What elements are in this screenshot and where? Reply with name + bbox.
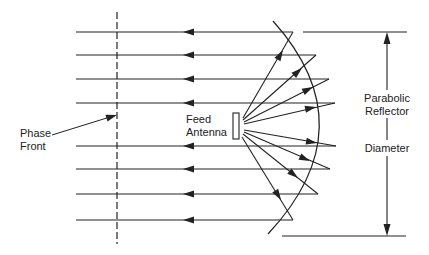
phase-front-leader (52, 117, 110, 135)
reflector-label-line2: Reflector (365, 105, 409, 117)
diameter-label: Diameter (365, 142, 410, 154)
feed-antenna-label-line2: Antenna (186, 126, 228, 138)
diagram-svg: Phase Front Feed Antenna Parabolic Refle… (0, 0, 429, 255)
feed-antenna-label-line1: Feed (186, 113, 211, 125)
phase-front-label-line2: Front (20, 140, 46, 152)
diameter-arrowhead-up (384, 32, 391, 44)
feed-rays (242, 32, 336, 220)
feed-antenna (233, 113, 239, 139)
phase-front-leader-arrowhead (105, 112, 118, 122)
parabolic-reflector (268, 21, 319, 234)
feed-ray-arrowheads (272, 48, 317, 202)
parabolic-reflector-diagram: Phase Front Feed Antenna Parabolic Refle… (0, 0, 429, 255)
reflector-label-line1: Parabolic (364, 92, 410, 104)
phase-front-label-line1: Phase (20, 127, 51, 139)
diameter-arrowhead-down (384, 224, 391, 236)
